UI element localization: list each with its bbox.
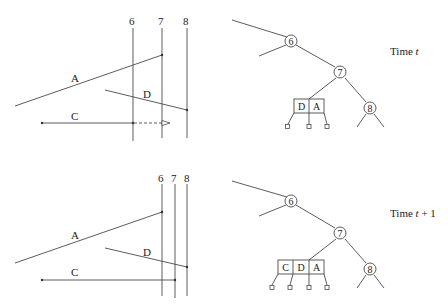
segment-label-c: C (71, 110, 78, 122)
endpoint-dot (174, 279, 176, 281)
leaf-pointer (272, 274, 278, 285)
leaf-key-d: D (298, 101, 305, 112)
tree-edge (345, 239, 366, 263)
sweep-label-6: 6 (158, 172, 164, 184)
endpoint-dot (41, 122, 43, 124)
tree-edge (259, 205, 286, 216)
endpoint-dot (186, 266, 188, 268)
endpoint-dot (186, 109, 188, 111)
leaf-key-a: A (313, 262, 321, 273)
endpoint-dot (161, 54, 163, 56)
arrow-right-icon (162, 121, 170, 126)
tree-edge (259, 45, 286, 56)
tree-edge (357, 275, 366, 288)
tree-edge (374, 114, 384, 127)
tree-edge (232, 181, 287, 197)
segment-label-d: D (143, 88, 151, 100)
panel-time-t-plus-1: 6 7 8 A D C 6 7 (15, 172, 436, 298)
tree-edge (374, 275, 384, 288)
endpoint-dot (161, 211, 163, 213)
segment-label-a: A (71, 229, 79, 241)
sweep-label-6: 6 (129, 15, 135, 27)
leaf-pointer (324, 274, 327, 285)
segment-a (15, 212, 162, 263)
leaf-square (286, 125, 290, 129)
tree-node-label-6: 6 (289, 36, 294, 47)
leaf-key-d: D (297, 262, 304, 273)
sweep-label-8: 8 (184, 172, 190, 184)
tree-edge (345, 78, 366, 102)
sweep-label-8: 8 (183, 15, 189, 27)
tree-node-label-8: 8 (368, 264, 373, 275)
panel-time-t: 6 7 8 A D C (15, 15, 420, 141)
endpoint-dot (132, 122, 134, 124)
tree-edge (296, 205, 335, 228)
sweep-label-7: 7 (158, 15, 164, 27)
leaf-square (270, 286, 274, 290)
endpoint-dot (41, 279, 43, 281)
leaf-square (325, 286, 329, 290)
leaf-square (307, 125, 311, 129)
diagram-canvas: 6 7 8 A D C (0, 0, 448, 308)
tree-edge (296, 45, 335, 67)
tree-node-label-7: 7 (338, 67, 343, 78)
leaf-pointer (290, 274, 293, 285)
tree-edge (309, 78, 336, 99)
tree-node-label-6: 6 (289, 196, 294, 207)
tree-top: 6 7 8 D A (232, 20, 384, 129)
time-label-t-plus-1: Time t + 1 (390, 207, 436, 219)
tree-edge (232, 20, 287, 37)
tree-edge (309, 239, 336, 260)
leaf-key-c: C (282, 262, 289, 273)
sweep-lines-bottom: 6 7 8 (158, 172, 190, 298)
time-label-t: Time t (390, 45, 420, 57)
leaf-key-a: A (313, 101, 321, 112)
segment-label-c: C (71, 266, 78, 278)
leaf-square (288, 286, 292, 290)
tree-node-label-7: 7 (338, 228, 343, 239)
leaf-pointer (324, 113, 327, 124)
sweep-label-7: 7 (171, 172, 177, 184)
sweep-lines-top: 6 7 8 (129, 15, 189, 141)
tree-bottom: 6 7 8 C D A (232, 181, 384, 290)
leaf-square (307, 286, 311, 290)
tree-edge (357, 114, 366, 127)
segment-label-d: D (143, 246, 151, 258)
leaf-pointer (288, 113, 294, 124)
leaf-square (325, 125, 329, 129)
tree-node-label-8: 8 (368, 103, 373, 114)
segment-label-a: A (71, 72, 79, 84)
